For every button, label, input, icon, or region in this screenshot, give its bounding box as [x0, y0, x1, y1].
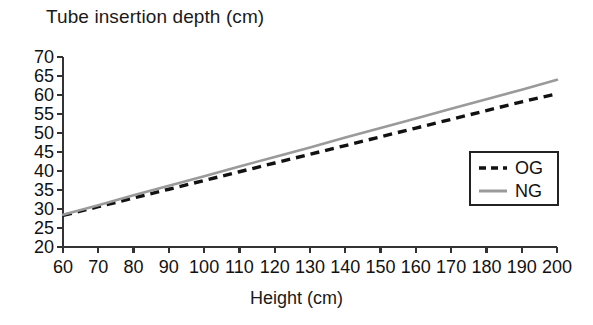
- x-axis-tick-label: 120: [260, 257, 290, 277]
- y-axis-tick-label: 60: [34, 85, 54, 105]
- x-axis-tick-label: 140: [330, 257, 360, 277]
- x-axis-tick-label: 150: [366, 257, 396, 277]
- y-axis-tick-label: 45: [34, 142, 54, 162]
- legend-label-og: OG: [515, 158, 543, 178]
- legend-box: [470, 152, 558, 205]
- y-axis-tick-label: 65: [34, 66, 54, 86]
- y-axis-tick-label: 20: [34, 237, 54, 257]
- x-axis-tick-label: 190: [507, 257, 537, 277]
- chart-figure: Tube insertion depth (cm) 20253035404550…: [0, 0, 593, 325]
- y-axis-tick-label: 30: [34, 199, 54, 219]
- y-axis-tick-label: 55: [34, 104, 54, 124]
- x-axis-label: Height (cm): [0, 288, 593, 309]
- chart-legend[interactable]: OGNG: [470, 152, 558, 205]
- legend-label-ng: NG: [515, 181, 542, 201]
- chart-plot-area: 2025303540455055606570607080901001101201…: [0, 0, 593, 325]
- y-axis-tick-label: 50: [34, 123, 54, 143]
- x-axis-tick-label: 180: [471, 257, 501, 277]
- y-axis-tick-label: 35: [34, 180, 54, 200]
- x-axis-tick-label: 200: [542, 257, 572, 277]
- y-axis-tick-label: 40: [34, 161, 54, 181]
- x-axis-tick-label: 130: [295, 257, 325, 277]
- x-axis-tick-label: 80: [124, 257, 144, 277]
- x-axis-tick-label: 100: [189, 257, 219, 277]
- y-axis-tick-label: 25: [34, 218, 54, 238]
- x-axis-tick-label: 160: [401, 257, 431, 277]
- x-axis-tick-label: 60: [53, 257, 73, 277]
- x-axis-tick-label: 70: [88, 257, 108, 277]
- x-axis-tick-label: 110: [225, 257, 254, 277]
- x-axis-tick-label: 90: [159, 257, 179, 277]
- x-axis-tick-label: 170: [436, 257, 466, 277]
- y-axis-tick-label: 70: [34, 47, 54, 67]
